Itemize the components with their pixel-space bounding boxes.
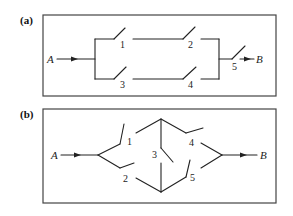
bottom-node-left-wire xyxy=(136,178,161,192)
output-arrow-icon xyxy=(244,57,251,62)
switch-4: 4 xyxy=(161,119,203,148)
input-arrow-icon xyxy=(74,153,81,158)
panel-a-frame xyxy=(43,15,276,96)
input-a-label: A xyxy=(50,149,58,161)
right-fork-lower xyxy=(201,155,222,168)
output-b-label: B xyxy=(256,53,263,65)
panel-a-label: (a) xyxy=(20,14,33,27)
output-arrow-icon xyxy=(240,153,247,158)
switch-3: 3 xyxy=(152,148,173,162)
panel-b: (b) A 1 2 3 4 xyxy=(20,108,276,203)
top-node-left-wire xyxy=(136,119,161,133)
switch-5-label: 5 xyxy=(190,172,195,183)
panel-a: (a) A 1 2 3 4 xyxy=(20,14,276,96)
switch-5: 5 xyxy=(161,160,195,192)
switch-3: 3 xyxy=(95,67,126,90)
switch-1-label: 1 xyxy=(120,39,125,50)
input-a-label: A xyxy=(46,53,54,65)
switch-3-label: 3 xyxy=(120,79,125,90)
switch-4-label: 4 xyxy=(188,79,193,90)
diagram-canvas: (a) A 1 2 3 4 xyxy=(0,0,293,216)
switch-2-label: 2 xyxy=(123,173,128,184)
switch-1: 1 xyxy=(98,124,132,155)
switch-2: 2 xyxy=(183,27,195,50)
panel-b-label: (b) xyxy=(20,108,34,121)
switch-1-label: 1 xyxy=(127,136,132,147)
switch-5-label: 5 xyxy=(232,61,237,72)
input-arrow-icon xyxy=(71,57,78,62)
switch-1: 1 xyxy=(95,28,125,50)
switch-2: 2 xyxy=(98,155,134,184)
switch-3-label: 3 xyxy=(152,149,157,160)
switch-4-label: 4 xyxy=(189,137,194,148)
switch-2-label: 2 xyxy=(188,39,193,50)
switch-4: 4 xyxy=(183,67,196,90)
right-fork-upper xyxy=(201,143,222,155)
output-b-label: B xyxy=(260,149,267,161)
